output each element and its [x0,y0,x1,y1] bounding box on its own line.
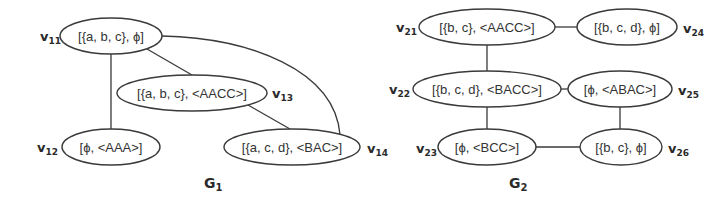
vertex-name-v21: v21 [396,20,417,37]
vertex-name-v14: v14 [367,141,388,158]
node-label: [ϕ, <BCC>] [455,140,519,155]
node-label: [{a, c, d}, <BAC>] [242,140,342,155]
vertex-name-v11: v11 [40,29,61,46]
vertex-name-v12: v12 [37,140,58,157]
node-v26: [{b, c}, ϕ] [580,129,662,165]
node-label: [{a, b, c}, ϕ] [78,29,144,44]
node-v23: [ϕ, <BCC>] [438,129,536,165]
node-label: [ϕ, <ABAC>] [584,82,656,97]
vertex-name-v22: v22 [389,82,410,99]
vertex-name-v25: v25 [678,83,699,100]
node-label: [{b, c}, ϕ] [595,140,646,155]
vertex-name-v26: v26 [668,141,689,158]
node-label: [{b, c}, <AACC>] [439,20,534,35]
node-label: [{b, c, d}, ϕ] [594,20,660,35]
edge-v11-v13 [147,49,192,75]
node-v13: [{a, b, c}, <AACC>] [117,75,267,111]
node-label: [{b, c, d}, <BACC>] [432,82,542,97]
node-v22: [{b, c, d}, <BACC>] [413,71,561,107]
diagram-canvas: [{a, b, c}, ϕ] v11 [ϕ, <AAA>] v12 [{a, b… [0,0,727,207]
node-v21: [{b, c}, <AACC>] [419,9,555,45]
edge-v13-v14 [248,105,290,129]
node-v24: [{b, c, d}, ϕ] [577,9,677,45]
vertex-name-v23: v23 [416,141,437,158]
node-v14: [{a, c, d}, <BAC>] [224,129,360,165]
graph-label-g2: G2 [509,175,528,193]
node-v25: [ϕ, <ABAC>] [568,71,672,107]
graph-label-g1: G1 [204,175,223,193]
vertex-name-v24: v24 [683,21,704,38]
vertex-name-v13: v13 [272,86,293,103]
node-label: [ϕ, <AAA>] [80,140,143,155]
node-label: [{a, b, c}, <AACC>] [137,86,247,101]
node-v12: [ϕ, <AAA>] [62,129,160,165]
node-v11: [{a, b, c}, ϕ] [60,18,162,54]
